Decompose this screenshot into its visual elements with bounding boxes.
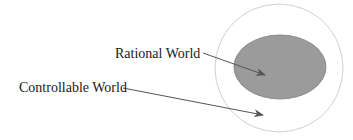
controllable-world-label: Controllable World <box>19 80 127 95</box>
rational-world-label: Rational World <box>115 46 200 61</box>
venn-diagram: Rational World Controllable World <box>0 0 353 140</box>
controllable-world-arrow <box>123 88 263 115</box>
rational-world-ellipse <box>234 35 326 99</box>
